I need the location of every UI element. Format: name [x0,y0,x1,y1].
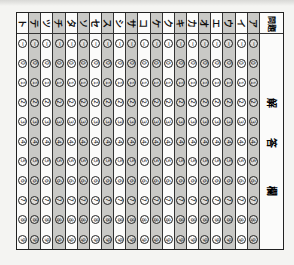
answer-bubble[interactable]: 4 [140,137,149,146]
answer-bubble[interactable]: 0 [212,59,221,68]
answer-bubble[interactable]: 5 [152,157,161,166]
answer-bubble[interactable]: 1 [55,78,64,87]
answer-bubble[interactable]: − [212,39,221,48]
answer-bubble[interactable]: 3 [18,117,27,126]
answer-bubble[interactable]: 6 [103,176,112,185]
answer-bubble[interactable]: 9 [188,235,197,244]
answer-bubble[interactable]: 9 [140,235,149,244]
answer-bubble[interactable]: 1 [176,78,185,87]
answer-bubble[interactable]: 7 [140,196,149,205]
answer-bubble[interactable]: 2 [188,98,197,107]
answer-bubble[interactable]: 5 [127,157,136,166]
answer-bubble[interactable]: 4 [18,137,27,146]
answer-bubble[interactable]: 2 [67,98,76,107]
answer-bubble[interactable]: 5 [140,157,149,166]
answer-bubble[interactable]: 2 [164,98,173,107]
answer-bubble[interactable]: 4 [79,137,88,146]
answer-bubble[interactable]: 0 [188,59,197,68]
answer-bubble[interactable]: 7 [67,196,76,205]
answer-bubble[interactable]: 5 [188,157,197,166]
answer-bubble[interactable]: − [30,39,39,48]
answer-bubble[interactable]: 0 [67,59,76,68]
answer-bubble[interactable]: − [176,39,185,48]
answer-bubble[interactable]: − [91,39,100,48]
answer-bubble[interactable]: 0 [91,59,100,68]
answer-bubble[interactable]: 9 [237,235,246,244]
answer-bubble[interactable]: 3 [249,117,258,126]
answer-bubble[interactable]: 0 [237,59,246,68]
answer-bubble[interactable]: 4 [55,137,64,146]
answer-bubble[interactable]: 7 [103,196,112,205]
answer-bubble[interactable]: 9 [212,235,221,244]
answer-bubble[interactable]: 2 [176,98,185,107]
answer-bubble[interactable]: 5 [18,157,27,166]
answer-bubble[interactable]: − [115,39,124,48]
answer-bubble[interactable]: 6 [212,176,221,185]
answer-bubble[interactable]: 3 [30,117,39,126]
answer-bubble[interactable]: 3 [103,117,112,126]
answer-bubble[interactable]: 7 [237,196,246,205]
answer-bubble[interactable]: − [67,39,76,48]
answer-bubble[interactable]: 3 [188,117,197,126]
answer-bubble[interactable]: 1 [103,78,112,87]
answer-bubble[interactable]: 3 [115,117,124,126]
answer-bubble[interactable]: 1 [164,78,173,87]
answer-bubble[interactable]: 5 [237,157,246,166]
answer-bubble[interactable]: 5 [79,157,88,166]
answer-bubble[interactable]: − [224,39,233,48]
answer-bubble[interactable]: 9 [152,235,161,244]
answer-bubble[interactable]: 7 [30,196,39,205]
answer-bubble[interactable]: 9 [200,235,209,244]
answer-bubble[interactable]: 5 [30,157,39,166]
answer-bubble[interactable]: 3 [42,117,51,126]
answer-bubble[interactable]: 5 [224,157,233,166]
answer-bubble[interactable]: − [103,39,112,48]
answer-bubble[interactable]: 0 [55,59,64,68]
answer-bubble[interactable]: 2 [103,98,112,107]
answer-bubble[interactable]: 1 [18,78,27,87]
answer-bubble[interactable]: 9 [79,235,88,244]
answer-bubble[interactable]: 8 [200,215,209,224]
answer-bubble[interactable]: 6 [176,176,185,185]
answer-bubble[interactable]: 4 [103,137,112,146]
answer-bubble[interactable]: 0 [115,59,124,68]
answer-bubble[interactable]: 5 [91,157,100,166]
answer-bubble[interactable]: 7 [188,196,197,205]
answer-bubble[interactable]: 2 [237,98,246,107]
answer-bubble[interactable]: 6 [67,176,76,185]
answer-bubble[interactable]: 4 [67,137,76,146]
answer-bubble[interactable]: 2 [42,98,51,107]
answer-bubble[interactable]: 9 [164,235,173,244]
answer-bubble[interactable]: 0 [42,59,51,68]
answer-bubble[interactable]: 3 [140,117,149,126]
answer-bubble[interactable]: 0 [79,59,88,68]
answer-bubble[interactable]: 1 [91,78,100,87]
answer-bubble[interactable]: 5 [212,157,221,166]
answer-bubble[interactable]: 0 [18,59,27,68]
answer-bubble[interactable]: 1 [249,78,258,87]
answer-bubble[interactable]: 4 [200,137,209,146]
answer-bubble[interactable]: 5 [55,157,64,166]
answer-bubble[interactable]: 9 [127,235,136,244]
answer-bubble[interactable]: 0 [30,59,39,68]
answer-bubble[interactable]: 1 [152,78,161,87]
answer-bubble[interactable]: 7 [224,196,233,205]
answer-bubble[interactable]: 4 [164,137,173,146]
answer-bubble[interactable]: 1 [115,78,124,87]
answer-bubble[interactable]: 6 [237,176,246,185]
answer-bubble[interactable]: 9 [176,235,185,244]
answer-bubble[interactable]: − [42,39,51,48]
answer-bubble[interactable]: 1 [224,78,233,87]
answer-bubble[interactable]: 0 [249,59,258,68]
answer-bubble[interactable]: 5 [249,157,258,166]
answer-bubble[interactable]: 8 [67,215,76,224]
answer-bubble[interactable]: 3 [79,117,88,126]
answer-bubble[interactable]: 3 [224,117,233,126]
answer-bubble[interactable]: 2 [140,98,149,107]
answer-bubble[interactable]: 5 [67,157,76,166]
answer-bubble[interactable]: − [249,39,258,48]
answer-bubble[interactable]: 9 [249,235,258,244]
answer-bubble[interactable]: 4 [30,137,39,146]
answer-bubble[interactable]: 9 [91,235,100,244]
answer-bubble[interactable]: 7 [55,196,64,205]
